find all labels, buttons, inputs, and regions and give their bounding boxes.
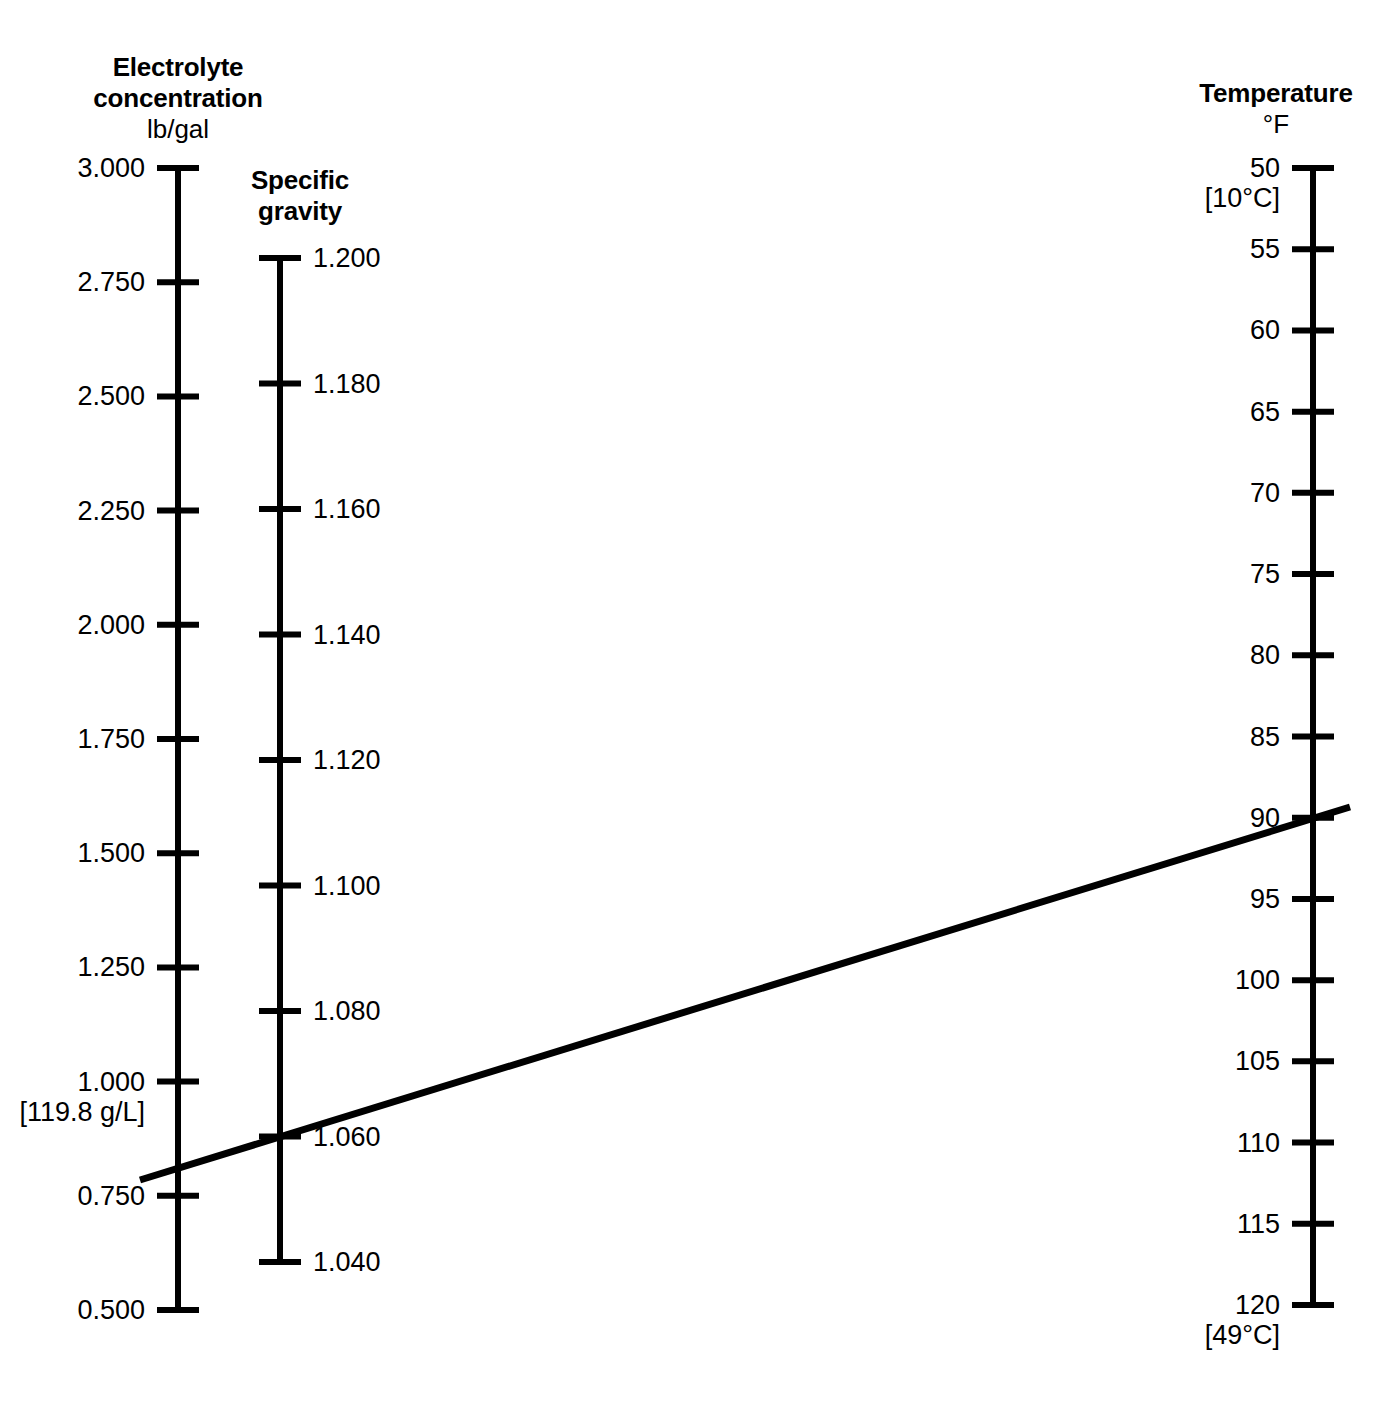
nomogram-canvas: [0, 0, 1396, 1410]
tick-label-temperature-65: 65: [1250, 398, 1280, 425]
tick-label-specific-gravity-1.040: 1.040: [313, 1249, 381, 1276]
axis-title-specific-gravity: Specific gravity: [251, 165, 349, 227]
tick-label-specific-gravity-1.180: 1.180: [313, 370, 381, 397]
tick-label-temperature-60: 60: [1250, 317, 1280, 344]
tick-label-electrolyte-concentration-0.500: 0.500: [77, 1297, 145, 1324]
tick-label-temperature-55: 55: [1250, 236, 1280, 263]
tick-label-specific-gravity-1.100: 1.100: [313, 872, 381, 899]
tick-label-temperature-110: 110: [1237, 1129, 1280, 1156]
tick-label-electrolyte-concentration-1.250: 1.250: [77, 954, 145, 981]
tick-label-temperature-105: 105: [1235, 1048, 1280, 1075]
tick-label-electrolyte-concentration-2.750: 2.750: [77, 269, 145, 296]
tick-label-temperature-80: 80: [1250, 642, 1280, 669]
tick-label-temperature-115: 115: [1237, 1210, 1280, 1237]
axis-unit-electrolyte-concentration: lb/gal: [147, 114, 209, 145]
axis-unit-temperature: °F: [1263, 109, 1289, 140]
tick-label-specific-gravity-1.060: 1.060: [313, 1123, 381, 1150]
tick-label-electrolyte-concentration-0.750: 0.750: [77, 1182, 145, 1209]
tick-label-temperature-50: 50: [1250, 155, 1280, 182]
nomogram-figure: Electrolyte concentration lb/gal Specifi…: [0, 0, 1396, 1410]
tick-label-electrolyte-concentration-1.000: 1.000: [77, 1068, 145, 1095]
tick-label-electrolyte-concentration-3.000: 3.000: [77, 155, 145, 182]
tick-label-electrolyte-concentration-2.000: 2.000: [77, 611, 145, 638]
axis-title-temperature: Temperature: [1199, 78, 1352, 109]
bracket-note-temperature-120: [49°C]: [1205, 1322, 1280, 1349]
tick-label-temperature-120: 120: [1235, 1292, 1280, 1319]
tick-label-temperature-75: 75: [1250, 561, 1280, 588]
tick-label-temperature-70: 70: [1250, 479, 1280, 506]
tick-label-electrolyte-concentration-2.250: 2.250: [77, 497, 145, 524]
tick-label-electrolyte-concentration-1.500: 1.500: [77, 840, 145, 867]
tick-label-temperature-95: 95: [1250, 885, 1280, 912]
tick-label-specific-gravity-1.160: 1.160: [313, 496, 381, 523]
tick-label-electrolyte-concentration-1.750: 1.750: [77, 726, 145, 753]
tick-label-temperature-100: 100: [1235, 967, 1280, 994]
tick-label-temperature-85: 85: [1250, 723, 1280, 750]
tick-label-temperature-90: 90: [1250, 804, 1280, 831]
bracket-note-electrolyte-concentration-1.000: [119.8 g/L]: [19, 1099, 145, 1126]
tick-label-electrolyte-concentration-2.500: 2.500: [77, 383, 145, 410]
bracket-note-temperature-50: [10°C]: [1205, 185, 1280, 212]
tick-label-specific-gravity-1.140: 1.140: [313, 621, 381, 648]
axis-title-electrolyte-concentration: Electrolyte concentration: [93, 52, 262, 114]
tick-label-specific-gravity-1.080: 1.080: [313, 998, 381, 1025]
tick-label-specific-gravity-1.200: 1.200: [313, 245, 381, 272]
tick-label-specific-gravity-1.120: 1.120: [313, 747, 381, 774]
